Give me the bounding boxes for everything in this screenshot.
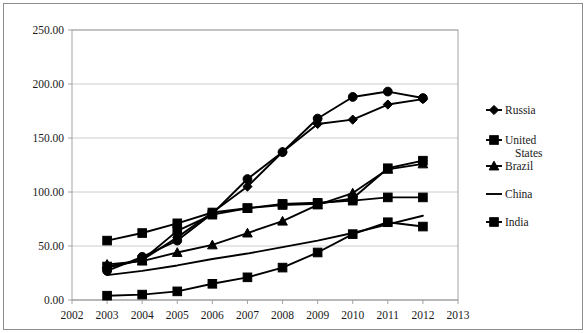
x-tick-label: 2003 [96,309,119,321]
data-point-marker [313,114,322,123]
data-point-marker [419,94,428,103]
x-tick-label: 2006 [201,309,224,321]
data-point-marker [348,230,357,239]
data-point-marker [384,193,393,202]
data-point-marker [383,87,392,96]
data-point-marker [348,93,357,102]
x-tick-label: 2010 [341,309,364,321]
y-tick-label: 250.00 [32,24,64,36]
legend-marker-square-icon [490,136,499,145]
y-tick-label: 150.00 [32,132,64,144]
y-tick-label: 200.00 [32,78,64,90]
x-tick-label: 2002 [61,309,84,321]
line-chart: 0.0050.00100.00150.00200.00250.00 200220… [0,0,586,333]
data-point-marker [138,229,147,238]
y-tick-label: 100.00 [32,186,64,198]
legend-label-cont: States [515,147,543,159]
legend-item-russia[interactable]: Russia [486,104,536,116]
legend-label: Brazil [505,160,533,172]
legend-label: India [505,216,529,228]
x-tick-label: 2013 [447,309,470,321]
y-tick-label: 0.00 [44,294,64,306]
x-tick-label: 2011 [377,309,400,321]
data-point-marker [103,291,112,300]
data-point-marker [173,287,182,296]
x-tick-label: 2004 [131,309,154,321]
data-point-marker [419,222,428,231]
x-tick-label: 2008 [271,309,294,321]
data-point-marker [243,273,252,282]
data-point-marker [243,204,252,213]
x-tick-label: 2005 [166,309,189,321]
legend-item-india[interactable]: India [486,216,529,228]
legend-label: China [505,188,532,200]
data-point-marker [278,263,287,272]
data-point-marker [313,248,322,257]
data-point-marker [208,280,217,289]
data-point-marker [384,218,393,227]
data-point-marker [103,236,112,245]
data-point-marker [208,209,217,218]
x-tick-label: 2007 [236,309,259,321]
data-point-marker [419,193,428,202]
data-point-marker [278,201,287,210]
data-point-marker [278,148,287,157]
legend-marker-square-icon [490,218,499,227]
legend-label: United [505,134,537,146]
y-tick-label: 50.00 [38,240,64,252]
x-tick-label: 2009 [306,309,329,321]
data-point-marker [173,236,182,245]
x-tick-label: 2012 [411,309,434,321]
chart-container: 0.0050.00100.00150.00200.00250.00 200220… [0,0,586,333]
legend-label: Russia [505,104,536,116]
data-point-marker [138,290,147,299]
data-point-marker [243,175,252,184]
